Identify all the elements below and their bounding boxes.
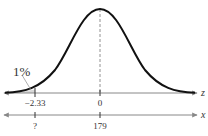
normal-curve-diagram: 1% −2.33 0 ? 179 z x: [0, 0, 208, 136]
z-tick-label-neg233: −2.33: [25, 98, 46, 108]
x-axis-label: x: [200, 109, 206, 120]
z-axis-label: z: [200, 87, 205, 98]
z-tick-label-0: 0: [98, 98, 103, 108]
x-tick-label-179: 179: [93, 121, 107, 131]
x-tick-label-unknown: ?: [33, 121, 37, 131]
percent-label: 1%: [13, 64, 31, 79]
